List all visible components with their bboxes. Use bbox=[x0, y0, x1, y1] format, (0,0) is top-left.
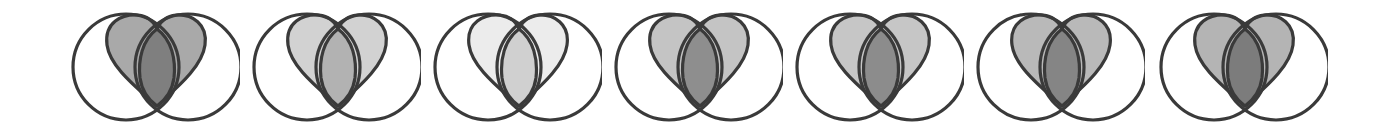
venn-heart-figure-2 bbox=[241, 0, 421, 129]
venn-heart-figure-6 bbox=[965, 0, 1145, 129]
intersection-lens bbox=[683, 29, 718, 106]
venn-heart-graphic bbox=[1148, 0, 1328, 129]
venn-heart-figure-5 bbox=[784, 0, 964, 129]
intersection-lens bbox=[1228, 29, 1263, 106]
intersection-lens bbox=[321, 29, 356, 106]
venn-heart-graphic bbox=[603, 0, 783, 129]
venn-heart-figure-3 bbox=[422, 0, 602, 129]
venn-heart-graphic bbox=[784, 0, 964, 129]
intersection-lens bbox=[502, 29, 537, 106]
venn-heart-graphic bbox=[241, 0, 421, 129]
venn-heart-graphic bbox=[965, 0, 1145, 129]
venn-heart-graphic bbox=[422, 0, 602, 129]
venn-heart-figure-1 bbox=[60, 0, 240, 129]
intersection-lens bbox=[140, 29, 175, 106]
venn-heart-figure-4 bbox=[603, 0, 783, 129]
intersection-lens bbox=[1045, 29, 1080, 106]
intersection-lens bbox=[864, 29, 899, 106]
venn-heart-graphic bbox=[60, 0, 240, 129]
venn-heart-strip bbox=[0, 0, 1393, 129]
venn-heart-figure-7 bbox=[1148, 0, 1328, 129]
